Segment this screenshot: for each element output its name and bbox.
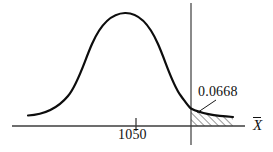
figure-container: 1050 0.0668 X	[0, 0, 273, 152]
area-label-leader-line	[198, 100, 217, 113]
mean-tick-label: 1050	[118, 127, 147, 143]
tail-area-label: 0.0668	[198, 84, 238, 100]
normal-curve	[28, 13, 233, 117]
x-axis-label: X	[253, 116, 262, 134]
x-bar-symbol: X	[253, 116, 262, 134]
